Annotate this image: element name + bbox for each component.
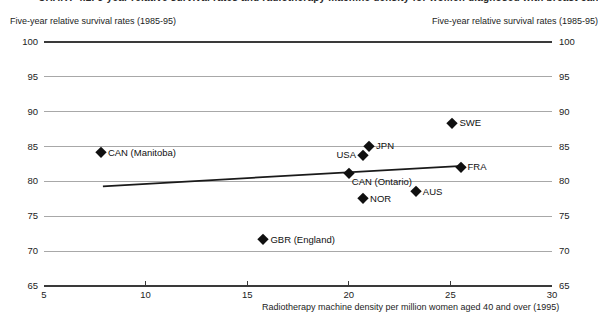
point-label-nor: NOR bbox=[370, 193, 391, 204]
plot-area: 1001009595909085858080757570706565510152… bbox=[0, 0, 603, 330]
x-axis-caption: Radiotherapy machine density per million… bbox=[262, 302, 559, 312]
point-label-can-manitoba-: CAN (Manitoba) bbox=[108, 147, 176, 158]
survival-vs-radiotherapy-chart: CHART 4.2. 5-year relative survival rate… bbox=[0, 0, 603, 330]
point-label-aus: AUS bbox=[423, 186, 443, 197]
point-label-can-ontario-: CAN (Ontario) bbox=[352, 176, 412, 187]
point-label-gbr-england-: GBR (England) bbox=[270, 234, 334, 245]
point-label-swe: SWE bbox=[459, 117, 481, 128]
point-label-jpn: JPN bbox=[376, 140, 394, 151]
point-label-fra: FRA bbox=[468, 161, 487, 172]
point-label-usa: USA bbox=[336, 149, 356, 160]
trend-line bbox=[0, 0, 603, 330]
